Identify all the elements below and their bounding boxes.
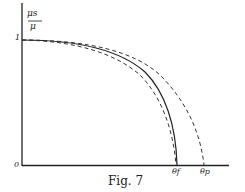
y-label-denominator: μ <box>30 21 36 31</box>
y-label-numerator: μs <box>27 8 37 18</box>
figure-caption: Fig. 7 <box>108 174 143 188</box>
x-tick-theta-p: θp <box>200 167 210 176</box>
chart-canvas <box>0 0 245 192</box>
curve-dashed-outer <box>22 40 204 165</box>
x-tick-theta-f: θf <box>172 167 180 176</box>
curve-dashed-inner <box>22 40 176 165</box>
y-tick-one: 1 <box>15 33 20 42</box>
curve-solid <box>22 40 177 165</box>
y-tick-zero: 0 <box>14 160 19 169</box>
